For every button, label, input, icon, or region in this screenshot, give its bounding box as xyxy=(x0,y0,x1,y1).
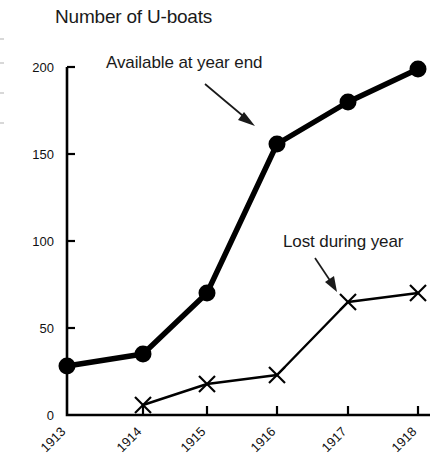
data-point-available-1914 xyxy=(135,346,152,363)
annotation-arrow-lost xyxy=(315,258,337,292)
data-point-available-1918 xyxy=(410,61,427,78)
data-point-available-1913 xyxy=(59,358,76,375)
u-boats-line-chart: Number of U-boats Available at year end … xyxy=(0,0,447,475)
plot-area xyxy=(0,0,447,475)
data-point-available-1916 xyxy=(269,136,286,153)
series-available-line xyxy=(67,69,418,366)
series-available-at-year-end xyxy=(59,61,427,375)
data-point-available-1917 xyxy=(340,94,357,111)
annotation-arrow-available xyxy=(205,84,255,126)
series-lost-during-year xyxy=(135,285,426,413)
series-lost-line xyxy=(143,293,418,405)
data-point-available-1915 xyxy=(199,285,216,302)
